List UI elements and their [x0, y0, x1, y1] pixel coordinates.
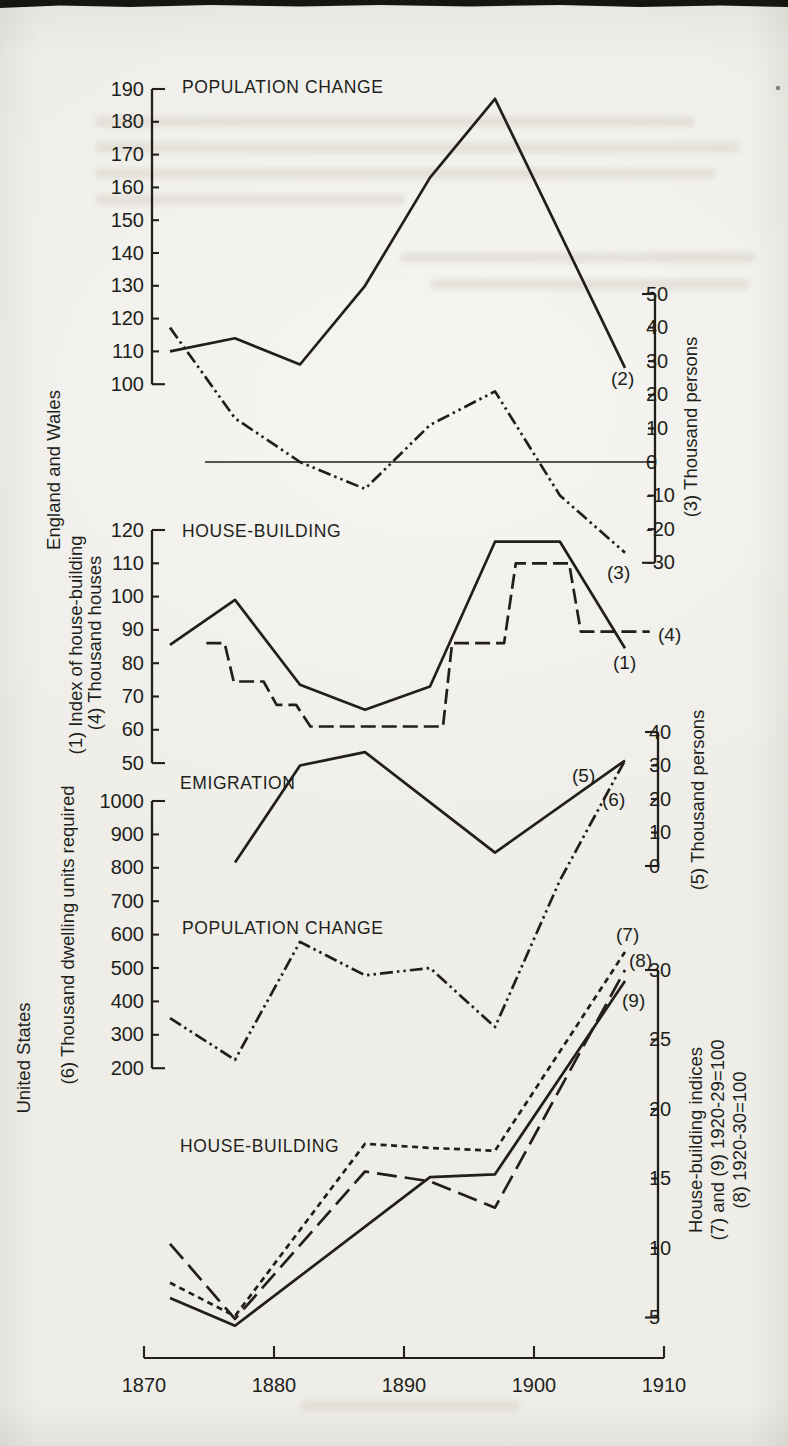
tick-label: -30 — [646, 551, 675, 573]
tick-label: 180 — [111, 110, 144, 132]
scan-artifact-top-bar — [0, 0, 788, 8]
series-label: (8) — [629, 950, 652, 971]
rotated-axis-label: (3) Thousand persons — [680, 337, 701, 518]
tick-label: 800 — [111, 856, 144, 878]
scanned-page: POPULATION CHANGE19018017016015014013012… — [0, 0, 788, 1446]
print-bleed-line — [95, 168, 715, 179]
print-bleed-line — [300, 1400, 520, 1411]
tick-label: 120 — [111, 307, 144, 329]
series-label: (2) — [611, 368, 634, 389]
tick-label: 30 — [649, 754, 671, 776]
x-tick-label: 1910 — [642, 1374, 687, 1396]
rotated-axis-label: (7) and (9) 1920-29=100 — [707, 1039, 728, 1240]
chart-title: POPULATION CHANGE — [182, 918, 383, 938]
chart-us-population-change: POPULATION CHANGE10009008007006005004003… — [100, 760, 626, 1078]
tick-label: 30 — [649, 959, 671, 981]
axis-right: 30252015105 — [645, 959, 671, 1329]
tick-label: 700 — [111, 890, 144, 912]
tick-label: 20 — [649, 788, 671, 810]
series-line-4 — [206, 563, 649, 726]
tick-label: 160 — [111, 176, 144, 198]
tick-label: 20 — [649, 1098, 671, 1120]
chart-title: POPULATION CHANGE — [182, 77, 383, 97]
axis-right: 403020100 — [645, 721, 671, 877]
series-label: (4) — [658, 624, 681, 645]
axis-left: 1201101009080706050 — [111, 519, 165, 774]
tick-label: 1000 — [100, 790, 145, 812]
series-line-5 — [235, 752, 625, 863]
tick-label: 5 — [649, 1306, 660, 1328]
tick-label: 170 — [111, 143, 144, 165]
tick-label: 500 — [111, 957, 144, 979]
tick-label: 90 — [122, 618, 144, 640]
tick-label: 10 — [649, 821, 671, 843]
tick-label: 40 — [649, 721, 671, 743]
axis-left: 1000900800700600500400300200 — [100, 790, 166, 1079]
tick-label: 10 — [649, 1237, 671, 1259]
tick-label: 150 — [111, 209, 144, 231]
tick-label: 900 — [111, 823, 144, 845]
tick-label: 200 — [111, 1057, 144, 1079]
series-line-7 — [170, 952, 625, 1316]
tick-label: 140 — [111, 242, 144, 264]
rotated-axis-label: (5) Thousand persons — [687, 710, 708, 891]
x-tick-label: 1890 — [382, 1374, 427, 1396]
tick-label: 120 — [111, 519, 144, 541]
tick-label: 40 — [646, 316, 668, 338]
series-label: (6) — [602, 789, 625, 810]
tick-label: 20 — [646, 383, 668, 405]
print-bleed-line — [430, 279, 750, 290]
rotated-axis-label: England and Wales — [43, 390, 64, 550]
chart-ew-house-building: HOUSE-BUILDING1201101009080706050(1)(4) — [111, 519, 682, 774]
print-bleed-line — [400, 252, 755, 263]
chart-us-house-building: HOUSE-BUILDING30252015105(7)(8)(9) — [170, 924, 671, 1328]
axis-right: 50403020100-10-20-30 — [642, 283, 675, 574]
chart-title: HOUSE-BUILDING — [182, 521, 341, 541]
series-line-1 — [170, 542, 625, 710]
series-label: (5) — [572, 765, 595, 786]
scan-speck — [776, 86, 780, 90]
x-tick-label: 1870 — [122, 1374, 167, 1396]
tick-label: -20 — [646, 518, 675, 540]
x-tick-label: 1900 — [512, 1374, 557, 1396]
tick-label: 50 — [646, 283, 668, 305]
tick-label: 15 — [649, 1167, 671, 1189]
x-axis: 18701880189019001910 — [122, 1346, 687, 1396]
series-line-6 — [170, 760, 625, 1060]
series-label: (1) — [613, 652, 636, 673]
series-label: (7) — [616, 924, 639, 945]
rotated-axis-label: (4) Thousand houses — [84, 556, 105, 731]
tick-label: 70 — [122, 685, 144, 707]
tick-label: 100 — [111, 373, 144, 395]
tick-label: 0 — [649, 855, 660, 877]
tick-label: 80 — [122, 652, 144, 674]
rotated-axis-label: (1) Index of house-building — [65, 535, 86, 754]
rotated-axis-label: House-building indices — [685, 1047, 706, 1233]
tick-label: 110 — [112, 340, 144, 362]
chart-ew-emigration: EMIGRATION403020100(5) — [180, 721, 671, 877]
tick-label: 110 — [112, 552, 144, 574]
series-label: (3) — [607, 562, 630, 583]
tick-label: 10 — [646, 417, 668, 439]
tick-label: 30 — [646, 350, 668, 372]
tick-label: 50 — [122, 752, 144, 774]
print-bleed-line — [95, 116, 695, 127]
tick-label: 600 — [111, 923, 144, 945]
rotated-axis-label: United States — [13, 1002, 34, 1113]
print-bleed-line — [95, 142, 740, 153]
series-line-3 — [170, 328, 625, 553]
tick-label: -10 — [646, 484, 675, 506]
tick-label: 190 — [111, 78, 144, 100]
chart-title: EMIGRATION — [180, 773, 296, 793]
rotated-axis-label: (8) 1920-30=100 — [729, 1071, 750, 1208]
tick-label: 100 — [111, 585, 144, 607]
chart-title: HOUSE-BUILDING — [180, 1136, 339, 1156]
tick-label: 130 — [111, 274, 144, 296]
tick-label: 400 — [111, 990, 144, 1012]
figure-canvas: POPULATION CHANGE19018017016015014013012… — [0, 0, 788, 1446]
x-tick-label: 1880 — [252, 1374, 297, 1396]
tick-label: 300 — [111, 1023, 144, 1045]
series-label: (9) — [622, 990, 645, 1011]
rotated-axis-label: (6) Thousand dwelling units required — [57, 786, 78, 1085]
tick-label: 25 — [649, 1028, 671, 1050]
